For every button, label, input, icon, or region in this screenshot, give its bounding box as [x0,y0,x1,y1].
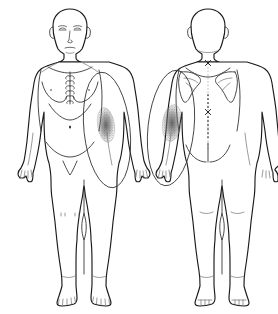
anterior-body-view[interactable] [18,9,150,306]
posterior-head-outline [191,9,225,62]
anterior-medial-leg-gap [82,214,87,240]
anterior-nipple-right [88,89,90,91]
posterior-medial-leg-gap [220,214,225,240]
anterior-umbilicus-landmark [69,126,71,129]
body-pain-map-figure: Body pain map — anterior and posterior v… [0,0,278,314]
anterior-head-outline [53,9,87,62]
posterior-body-view[interactable] [142,9,278,306]
anterior-nipple-left [50,89,52,91]
posterior-hand-right [262,170,274,178]
body-map-canvas [0,0,278,314]
posterior-body-outline [156,62,278,306]
